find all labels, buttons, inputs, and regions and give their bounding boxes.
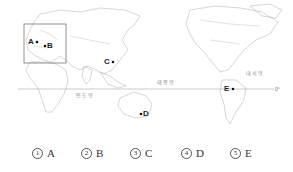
choice-1[interactable]: 1 A xyxy=(32,147,55,159)
ocean-label-indian: 인도양 xyxy=(76,91,94,98)
point-label-e: E xyxy=(224,85,229,93)
choice-4[interactable]: 4 D xyxy=(181,147,204,159)
ocean-label-atlantic: 대서양 xyxy=(246,69,264,76)
choice-label-5: E xyxy=(245,147,252,159)
ocean-label-pacific: 태평양 xyxy=(157,78,175,85)
choice-label-1: A xyxy=(47,147,55,159)
choice-5[interactable]: 5 E xyxy=(230,147,252,159)
choice-number-3: 3 xyxy=(130,148,141,159)
choice-label-2: B xyxy=(96,147,103,159)
point-label-c: C xyxy=(104,58,110,66)
choice-2[interactable]: 2 B xyxy=(81,147,103,159)
equator-label: 0° xyxy=(275,86,280,92)
choice-number-1: 1 xyxy=(32,148,43,159)
world-map: A B C D E 인도양 태평양 대서양 0° xyxy=(0,0,293,130)
choice-number-5: 5 xyxy=(230,148,241,159)
point-label-b: B xyxy=(47,42,53,50)
answer-choices: 1 A 2 B 3 C 4 D 5 E xyxy=(0,147,293,163)
choice-number-2: 2 xyxy=(81,148,92,159)
choice-3[interactable]: 3 C xyxy=(130,147,152,159)
choice-label-4: D xyxy=(196,147,204,159)
choice-number-4: 4 xyxy=(181,148,192,159)
point-label-a: A xyxy=(28,38,34,46)
point-label-d: D xyxy=(143,110,149,118)
choice-label-3: C xyxy=(145,147,152,159)
